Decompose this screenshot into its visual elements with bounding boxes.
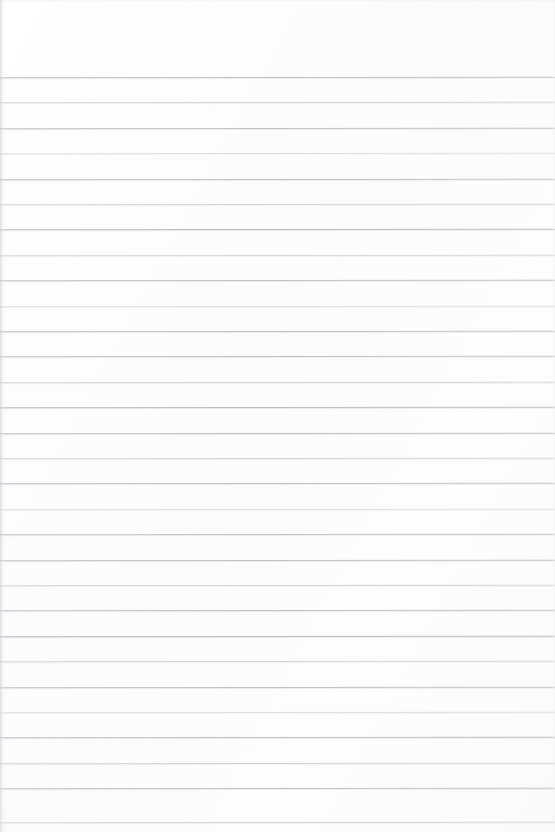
rule-line — [0, 610, 555, 612]
rule-line — [0, 204, 555, 206]
rule-line — [0, 128, 555, 130]
rule-line — [0, 509, 555, 511]
rule-line — [0, 255, 555, 257]
rule-line — [0, 77, 555, 79]
rule-line — [0, 822, 555, 824]
rule-line — [0, 560, 555, 562]
rule-line — [0, 153, 555, 155]
rule-line — [0, 636, 555, 638]
rule-line — [0, 229, 555, 231]
rule-line — [0, 712, 555, 714]
rule-line — [0, 458, 555, 460]
rule-line — [0, 356, 555, 358]
rule-line — [0, 763, 555, 765]
rule-line — [0, 331, 555, 333]
rule-line — [0, 788, 555, 790]
rule-line — [0, 687, 555, 689]
rule-line — [0, 382, 555, 384]
rule-line — [0, 102, 555, 104]
rule-line — [0, 433, 555, 435]
rule-line — [0, 661, 555, 663]
rule-line — [0, 534, 555, 536]
rule-line — [0, 737, 555, 739]
rule-line — [0, 483, 555, 485]
ruled-lines-group — [0, 0, 555, 832]
document-page — [0, 0, 555, 832]
rule-line — [0, 407, 555, 409]
rule-line — [0, 585, 555, 587]
rule-line — [0, 280, 555, 282]
rule-line — [0, 306, 555, 308]
rule-line — [0, 179, 555, 181]
